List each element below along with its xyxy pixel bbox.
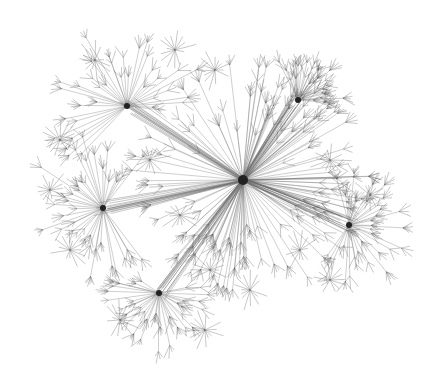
- leaf-edge: [202, 308, 209, 310]
- mini-hub-edge: [250, 290, 267, 296]
- mini-hub-edge: [60, 120, 61, 140]
- leaf-edge: [219, 115, 221, 126]
- spoke-edge: [103, 208, 116, 270]
- hub-link: [127, 100, 243, 178]
- mini-hub-edge: [201, 58, 215, 70]
- leaf-edge: [356, 251, 358, 258]
- mini-hub-edge: [51, 250, 71, 253]
- leaf-edge: [310, 61, 312, 69]
- spoke-edge: [73, 208, 103, 230]
- leaf-edge: [79, 246, 90, 254]
- right-hub-node: [346, 222, 352, 228]
- mini-hub-edge: [175, 50, 180, 64]
- leaf-edge: [308, 148, 314, 149]
- leaf-edge: [261, 259, 270, 267]
- leaf-edge: [223, 101, 226, 112]
- mini-hub-edge: [205, 322, 221, 330]
- mini-hub-edge: [107, 320, 120, 321]
- leaf-edge: [153, 186, 163, 194]
- mini-hub-edge: [330, 268, 341, 280]
- mini-hub-edge: [289, 235, 301, 250]
- mini-hub-edge: [69, 230, 70, 250]
- leaf-edge: [80, 78, 93, 79]
- leaf-edge: [277, 50, 279, 62]
- spoke-edge: [100, 88, 127, 106]
- leaf-edge: [376, 216, 388, 220]
- leaf-edge: [145, 126, 152, 138]
- mini-hub-edge: [204, 65, 215, 70]
- network-graph: [0, 0, 427, 387]
- mini-hub-edge: [215, 64, 221, 71]
- leaf-edge: [230, 55, 235, 65]
- leaf-edge: [286, 266, 287, 279]
- leaf-edge: [103, 298, 108, 300]
- graph-canvas: [0, 0, 427, 387]
- leaf-edge: [70, 86, 80, 88]
- leaf-edge: [55, 75, 60, 82]
- leaf-edge: [399, 205, 411, 212]
- hub-link: [126, 102, 243, 179]
- spoke-edge: [103, 208, 125, 258]
- leaf-edge: [252, 69, 258, 81]
- spoke-edge: [103, 177, 122, 208]
- mini-hub-edge: [250, 275, 258, 291]
- spoke-edge: [114, 282, 159, 293]
- leaf-edge: [56, 201, 68, 203]
- mini-hub-edge: [195, 255, 211, 270]
- left-hub-node: [100, 205, 106, 211]
- leaf-edge: [90, 246, 92, 254]
- mini-hub-edge: [206, 51, 216, 70]
- mini-hub-edge: [62, 236, 70, 250]
- spoke-edge: [103, 208, 132, 256]
- leaf-edge: [199, 70, 202, 82]
- leaf-edge: [190, 201, 195, 210]
- leaf-edge: [390, 248, 401, 249]
- mini-hub-edge: [50, 140, 60, 152]
- leaf-edge: [129, 284, 136, 286]
- leaf-edge: [200, 288, 210, 294]
- leaf-edge: [320, 179, 327, 183]
- leaf-edge: [55, 228, 62, 229]
- mini-hub-edge: [215, 70, 228, 76]
- leaf-edge: [331, 190, 338, 197]
- leaf-edge: [183, 297, 196, 301]
- leaf-edge: [182, 103, 193, 111]
- mini-hub-edge: [250, 290, 251, 306]
- leaf-edge: [86, 29, 87, 38]
- leaf-edge: [255, 226, 257, 232]
- leaf-edge: [163, 150, 175, 152]
- leaf-edge: [350, 276, 351, 289]
- mini-hub-edge: [190, 330, 205, 338]
- leaf-edge: [390, 249, 395, 260]
- mini-hub-edge: [167, 50, 175, 67]
- spoke-edge: [61, 82, 127, 106]
- leaf-edge: [51, 82, 61, 85]
- mini-hub-edge: [205, 330, 223, 336]
- mini-hub-edge: [210, 258, 211, 270]
- spoke-edge: [86, 38, 127, 106]
- leaf-edge: [141, 339, 142, 345]
- leaf-edge: [266, 60, 274, 67]
- leaf-edge: [266, 60, 270, 67]
- leaf-edge: [147, 33, 154, 42]
- mini-hub-edge: [136, 160, 150, 172]
- leaf-edge: [313, 55, 314, 64]
- leaf-edge: [286, 59, 288, 71]
- leaf-edge: [239, 261, 240, 273]
- mini-hub-edge: [323, 280, 330, 292]
- leaf-edge: [125, 298, 134, 301]
- spoke-edge: [127, 71, 178, 107]
- leaf-edge: [108, 141, 112, 152]
- leaf-edge: [45, 204, 55, 205]
- leaf-edge: [258, 259, 261, 269]
- mini-hub-edge: [50, 174, 64, 190]
- leaf-edge: [283, 158, 294, 163]
- leaf-edge: [94, 143, 101, 155]
- leaf-edge: [343, 98, 355, 105]
- leaf-edge: [250, 230, 260, 239]
- leaf-edge: [345, 281, 353, 292]
- hub-link: [125, 103, 243, 179]
- leaf-edge: [350, 276, 359, 287]
- leaf-edge: [191, 272, 192, 282]
- leaf-edge: [274, 264, 285, 271]
